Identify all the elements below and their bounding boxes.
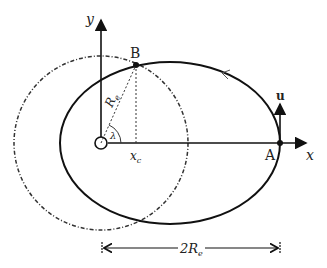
xc-label: xc — [130, 149, 142, 165]
orbit-diagram: y x λ Re xc B A u 2Re — [0, 0, 327, 268]
y-axis-label: y — [85, 11, 95, 27]
x-axis-label: x — [306, 147, 314, 163]
dimension-label: 2Re — [179, 241, 203, 258]
point-b — [133, 62, 139, 68]
point-a-label: A — [264, 147, 276, 163]
lambda-label: λ — [109, 130, 116, 141]
radius-label: Re — [102, 91, 123, 111]
point-b-label: B — [130, 45, 140, 61]
velocity-label: u — [276, 89, 285, 103]
